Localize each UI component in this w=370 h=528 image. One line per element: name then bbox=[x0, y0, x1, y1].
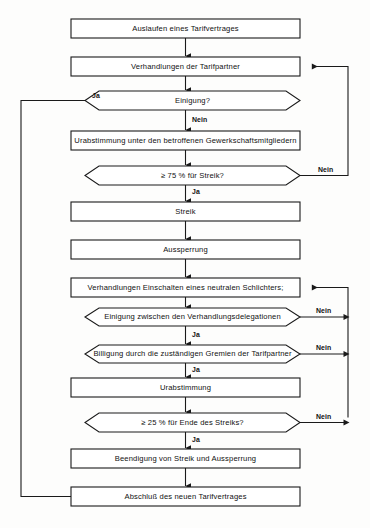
connector-ja-loop-left bbox=[21, 101, 204, 497]
node-label: Aussperrung bbox=[163, 245, 208, 254]
node-verhandlungen-tarifpartner[interactable]: Verhandlungen der Tarifpartner bbox=[71, 57, 300, 76]
flowchart-svg: Auslaufen eines Tarifvertrages Verhandlu… bbox=[0, 0, 370, 528]
node-label: Urabstimmung unter den betroffenen Gewer… bbox=[74, 136, 296, 145]
node-decision-einigung[interactable]: Einigung? bbox=[85, 91, 300, 110]
edge-label-ja-einigung: Ja bbox=[92, 92, 100, 99]
node-streik[interactable]: Streik bbox=[71, 202, 300, 221]
node-abschluss-neuer-tarifvertrag[interactable]: Abschluß des neuen Tarifvertrages bbox=[71, 487, 300, 506]
edge-label-ja-75: Ja bbox=[192, 188, 200, 195]
node-urabstimmung[interactable]: Urabstimmung bbox=[71, 378, 300, 397]
node-beendigung-streik-aussperrung[interactable]: Beendigung von Streik und Aussperrung bbox=[71, 449, 300, 468]
node-label: Billigung durch die zuständigen Gremien … bbox=[93, 349, 292, 358]
node-label: Verhandlungen der Tarifpartner bbox=[131, 62, 240, 71]
node-label: Einigung? bbox=[175, 96, 210, 105]
node-label: Urabstimmung bbox=[160, 383, 211, 392]
edge-label-nein-75: Nein bbox=[318, 166, 333, 173]
node-decision-75-prozent-streik[interactable]: ≥ 75 % für Streik? bbox=[85, 166, 300, 185]
node-label: ≥ 25 % für Ende des Streiks? bbox=[141, 418, 244, 427]
node-auslaufen-tarifvertrag[interactable]: Auslaufen eines Tarifvertrages bbox=[71, 19, 300, 38]
edge-label-ja-einigung2: Ja bbox=[192, 331, 200, 338]
node-label: Auslaufen eines Tarifvertrages bbox=[132, 24, 239, 33]
node-decision-billigung-gremien[interactable]: Billigung durch die zuständigen Gremien … bbox=[85, 345, 300, 363]
node-label: Einigung zwischen den Verhandlungsdelega… bbox=[104, 312, 281, 321]
node-label: Beendigung von Streik und Aussperrung bbox=[115, 454, 257, 463]
edge-label-nein-einigung: Nein bbox=[192, 116, 207, 123]
edge-label-nein-einigung2: Nein bbox=[316, 307, 331, 314]
connector-nein-loop-75 bbox=[300, 67, 348, 176]
edge-label-ja-25: Ja bbox=[192, 436, 200, 443]
node-label: Abschluß des neuen Tarifvertrages bbox=[124, 492, 246, 501]
edge-label-nein-billigung: Nein bbox=[316, 344, 331, 351]
node-label: Verhandlungen Einschalten eines neutrale… bbox=[88, 283, 284, 292]
node-verhandlungen-schlichter[interactable]: Verhandlungen Einschalten eines neutrale… bbox=[71, 278, 300, 297]
node-aussperrung[interactable]: Aussperrung bbox=[71, 240, 300, 259]
node-decision-einigung-verhandlungsdelegationen[interactable]: Einigung zwischen den Verhandlungsdelega… bbox=[85, 308, 300, 326]
node-label: Streik bbox=[175, 207, 195, 216]
node-decision-25-prozent-ende-streik[interactable]: ≥ 25 % für Ende des Streiks? bbox=[85, 413, 300, 432]
edge-label-nein-25: Nein bbox=[316, 413, 331, 420]
edge-label-ja-billigung: Ja bbox=[192, 366, 200, 373]
node-urabstimmung-gewerkschaftsmitglieder[interactable]: Urabstimmung unter den betroffenen Gewer… bbox=[71, 131, 300, 150]
flowchart-canvas: Auslaufen eines Tarifvertrages Verhandlu… bbox=[0, 0, 370, 528]
node-label: ≥ 75 % für Streik? bbox=[161, 171, 224, 180]
